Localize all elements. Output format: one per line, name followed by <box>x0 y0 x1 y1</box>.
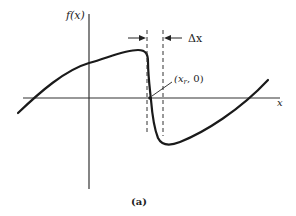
function-curve <box>18 50 268 145</box>
right-arrow-icon <box>128 35 146 41</box>
x-axis-label: x <box>277 97 283 108</box>
root-point <box>148 96 152 100</box>
figure-caption: (a) <box>131 196 147 207</box>
interval-label: Δx <box>188 32 203 45</box>
root-finding-diagram: f(x) x Δx (xr, 0) (a) <box>0 0 296 216</box>
root-label: (xr, 0) <box>174 73 204 86</box>
y-axis-label: f(x) <box>65 9 85 22</box>
root-leader-line <box>152 82 172 96</box>
left-arrow-icon <box>164 35 182 41</box>
